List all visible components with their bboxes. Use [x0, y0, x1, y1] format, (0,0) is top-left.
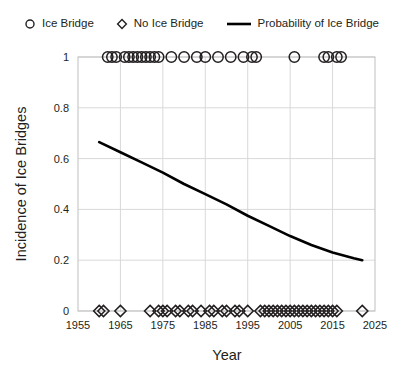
- y-axis-tick-labels: 00.20.40.60.81: [54, 51, 69, 317]
- y-axis-title: Incidence of Ice Bridges: [13, 107, 29, 262]
- plot-frame: [78, 57, 375, 311]
- x-axis-title: Year: [212, 347, 241, 363]
- y-tick-label: 0.6: [54, 153, 69, 165]
- x-tick-label: 1985: [193, 319, 217, 331]
- chart-container: Ice Bridge No Ice Bridge Probability of …: [0, 0, 403, 379]
- x-tick-label: 1955: [66, 319, 90, 331]
- series-probability-line: [99, 142, 362, 260]
- chart-plot: 19551965197519851995200520152025 00.20.4…: [0, 0, 403, 379]
- y-tick-label: 1: [63, 51, 69, 63]
- y-tick-label: 0.8: [54, 102, 69, 114]
- y-tick-label: 0.4: [54, 203, 69, 215]
- x-tick-label: 1995: [235, 319, 259, 331]
- y-tick-label: 0: [63, 305, 69, 317]
- grid-lines: [78, 57, 375, 311]
- x-tick-label: 2025: [363, 319, 387, 331]
- x-tick-label: 1975: [151, 319, 175, 331]
- x-tick-label: 2015: [320, 319, 344, 331]
- x-axis-tick-labels: 19551965197519851995200520152025: [66, 319, 387, 331]
- x-tick-label: 1965: [108, 319, 132, 331]
- y-tick-label: 0.2: [54, 254, 69, 266]
- x-tick-label: 2005: [278, 319, 302, 331]
